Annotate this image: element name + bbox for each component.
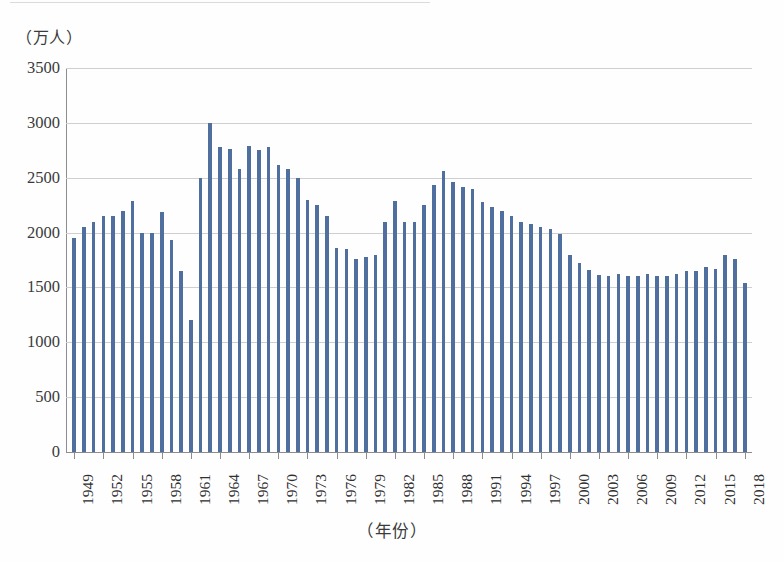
y-tick-label-3500: 3500 — [0, 60, 60, 77]
x-tick-label-1994: 1994 — [518, 474, 534, 505]
bar — [72, 238, 76, 452]
bar — [578, 263, 582, 452]
bar — [549, 229, 553, 452]
x-tick — [366, 452, 367, 459]
bar — [558, 234, 562, 452]
y-axis-unit-label: （万人） — [16, 24, 82, 48]
bar — [587, 270, 591, 452]
bar — [354, 259, 358, 452]
bar — [636, 276, 640, 452]
bar — [131, 201, 135, 452]
x-tick — [716, 452, 717, 459]
x-tick — [337, 452, 338, 459]
bar — [597, 275, 601, 452]
x-tick — [512, 452, 513, 459]
bar — [510, 216, 514, 452]
bar — [374, 255, 378, 452]
bar — [490, 207, 494, 452]
bar — [315, 205, 319, 452]
x-tick — [278, 452, 279, 459]
bar — [121, 211, 125, 452]
x-tick-label-2018: 2018 — [751, 474, 767, 505]
x-tick — [162, 452, 163, 459]
x-tick — [745, 452, 746, 459]
bar — [626, 276, 630, 452]
bar — [733, 259, 737, 452]
x-tick — [424, 452, 425, 459]
chart-page: （万人） 3500300025002000150010005000 194919… — [0, 0, 784, 562]
bar — [685, 271, 689, 452]
bar — [228, 149, 232, 452]
x-tick-label-1997: 1997 — [547, 474, 563, 505]
y-tick-label-2500: 2500 — [0, 170, 60, 187]
x-tick — [74, 452, 75, 459]
bar — [325, 216, 329, 452]
bar-series — [66, 68, 752, 452]
bar — [208, 123, 212, 452]
bar — [111, 216, 115, 452]
x-tick — [657, 452, 658, 459]
x-tick-label-1973: 1973 — [313, 474, 329, 505]
bar — [451, 182, 455, 452]
bar — [82, 227, 86, 452]
bar — [481, 202, 485, 452]
bar — [694, 271, 698, 452]
bar — [364, 257, 368, 452]
y-tick-label-3000: 3000 — [0, 115, 60, 132]
bar — [714, 269, 718, 452]
x-tick — [249, 452, 250, 459]
bar — [247, 146, 251, 452]
x-tick-label-1979: 1979 — [372, 474, 388, 505]
x-tick-label-2003: 2003 — [605, 474, 621, 505]
x-tick-label-1952: 1952 — [109, 474, 125, 505]
x-tick-label-1958: 1958 — [168, 474, 184, 505]
x-tick-label-1982: 1982 — [401, 474, 417, 505]
x-tick — [541, 452, 542, 459]
x-axis-tick-labels: 1949195219551958196119641967197019731976… — [66, 461, 752, 517]
bar — [160, 212, 164, 452]
bar — [286, 169, 290, 452]
x-tick-label-1976: 1976 — [343, 474, 359, 505]
x-tick — [686, 452, 687, 459]
x-tick-label-1985: 1985 — [430, 474, 446, 505]
x-tick — [482, 452, 483, 459]
bar — [655, 276, 659, 452]
x-tick-label-2006: 2006 — [634, 474, 650, 505]
bar — [218, 147, 222, 452]
bar — [500, 211, 504, 452]
bar — [723, 255, 727, 452]
x-tick-label-2015: 2015 — [722, 474, 738, 505]
bar — [442, 171, 446, 452]
bar — [403, 222, 407, 452]
bar — [140, 233, 144, 452]
x-tick-label-1961: 1961 — [197, 474, 213, 505]
x-tick — [570, 452, 571, 459]
y-tick-label-2000: 2000 — [0, 225, 60, 242]
scan-artifact-line — [10, 2, 430, 3]
bar — [704, 267, 708, 452]
x-tick — [599, 452, 600, 459]
x-tick-label-1991: 1991 — [488, 474, 504, 505]
bar — [422, 205, 426, 452]
x-axis-ticks — [66, 452, 752, 460]
bar — [335, 248, 339, 452]
bar — [277, 165, 281, 452]
bar — [471, 189, 475, 452]
bar — [267, 147, 271, 452]
x-tick-label-1988: 1988 — [459, 474, 475, 505]
x-tick — [628, 452, 629, 459]
bar — [529, 224, 533, 452]
bar — [539, 227, 543, 452]
bar — [617, 274, 621, 452]
x-tick-label-1949: 1949 — [80, 474, 96, 505]
x-tick — [220, 452, 221, 459]
bar — [345, 249, 349, 452]
bar — [296, 178, 300, 452]
x-tick-label-2012: 2012 — [692, 474, 708, 505]
y-tick-label-1000: 1000 — [0, 334, 60, 351]
x-tick-label-2009: 2009 — [663, 474, 679, 505]
bar — [461, 187, 465, 453]
bar — [189, 320, 193, 452]
y-tick-label-500: 500 — [0, 389, 60, 406]
y-tick-label-0: 0 — [0, 444, 60, 461]
